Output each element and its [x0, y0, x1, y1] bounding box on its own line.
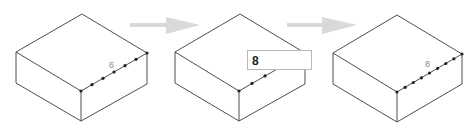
segment-count-label: 8 — [425, 59, 430, 69]
segment-count-label: 6 — [109, 60, 114, 70]
box-step-3: 8 — [333, 15, 464, 122]
right-arrow-icon — [287, 17, 357, 34]
right-arrow-icon — [130, 17, 200, 34]
box-step-1: 6 — [16, 14, 149, 121]
diagram-canvas: 6 8 — [0, 0, 472, 132]
segment-count-input[interactable] — [247, 50, 312, 70]
